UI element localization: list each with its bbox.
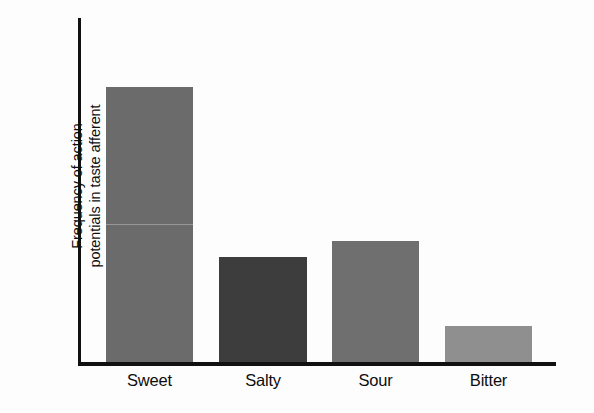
x-tick-label-sweet: Sweet: [106, 371, 193, 390]
x-tick-label-bitter: Bitter: [445, 371, 532, 390]
bar-salty-fill: [219, 257, 307, 362]
x-tick-label-salty: Salty: [219, 371, 307, 390]
bar-bitter: [445, 326, 532, 362]
bar-salty: [219, 257, 307, 362]
bar-bitter-fill: [445, 326, 532, 362]
bar-sour-fill: [332, 241, 419, 362]
bar-chart-figure: Frequency of action potentials in taste …: [0, 0, 594, 413]
plot-area: [0, 0, 594, 413]
bar-sour: [332, 241, 419, 362]
x-tick-label-sour: Sour: [332, 371, 419, 390]
scan-artifact-line: [106, 224, 193, 225]
